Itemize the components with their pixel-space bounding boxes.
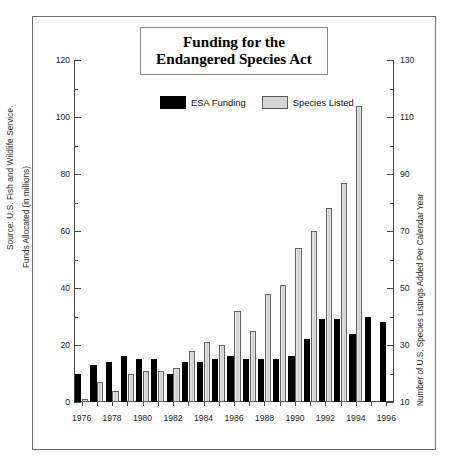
right-tick-major: [387, 402, 394, 403]
right-tick-major: [387, 117, 394, 118]
chart-title-line-1: Funding for the: [149, 33, 319, 50]
x-axis-label: 1982: [156, 413, 190, 423]
x-axis-label: 1976: [65, 413, 99, 423]
bar-species-listed: [173, 368, 179, 402]
x-tick: [188, 402, 189, 406]
bar-esa-funding: [197, 362, 203, 402]
right-tick-minor: [390, 374, 394, 375]
x-axis-label: 1996: [369, 413, 403, 423]
right-tick-label: 130: [400, 55, 440, 65]
source-credit: Source: U.S. Fish and Wildlife Service.: [6, 50, 15, 250]
bar-esa-funding: [304, 339, 310, 402]
bar-esa-funding: [90, 365, 96, 402]
bar-esa-funding: [121, 356, 127, 402]
bar-species-listed: [82, 399, 88, 402]
bar-species-listed: [341, 183, 347, 402]
x-tick: [249, 402, 250, 406]
bar-esa-funding: [212, 359, 218, 402]
bar-esa-funding: [380, 322, 386, 402]
chart-figure: Source: U.S. Fish and Wildlife Service. …: [0, 0, 450, 464]
right-tick-minor: [390, 317, 394, 318]
left-tick-major: [74, 174, 81, 175]
x-axis-label: 1978: [95, 413, 129, 423]
x-tick: [234, 402, 235, 406]
plot-area: 020406080100120 1030507090110130 1976197…: [74, 60, 394, 402]
x-tick: [295, 402, 296, 406]
bar-esa-funding: [288, 356, 294, 402]
bar-species-listed: [128, 374, 134, 403]
x-axis-label: 1986: [217, 413, 251, 423]
x-tick: [341, 402, 342, 406]
x-axis-label: 1992: [308, 413, 342, 423]
bar-esa-funding: [151, 359, 157, 402]
right-tick-label: 70: [400, 226, 440, 236]
left-tick-minor: [74, 260, 78, 261]
legend-label-species-listed: Species Listed: [293, 97, 354, 108]
bar-esa-funding: [227, 356, 233, 402]
bar-esa-funding: [258, 359, 264, 402]
left-tick-label: 40: [30, 283, 70, 293]
left-tick-label: 80: [30, 169, 70, 179]
light-swatch-icon: [262, 96, 288, 109]
right-tick-major: [387, 345, 394, 346]
right-tick-minor: [390, 89, 394, 90]
x-axis-label: 1988: [247, 413, 281, 423]
left-tick-major: [74, 288, 81, 289]
dark-swatch-icon: [160, 96, 186, 109]
bar-species-listed: [280, 285, 286, 402]
x-tick: [310, 402, 311, 406]
bar-esa-funding: [334, 319, 340, 402]
x-tick: [112, 402, 113, 406]
left-tick-minor: [74, 89, 78, 90]
x-tick: [219, 402, 220, 406]
right-tick-label: 50: [400, 283, 440, 293]
x-tick: [127, 402, 128, 406]
left-tick-major: [74, 60, 81, 61]
bar-species-listed: [189, 351, 195, 402]
x-tick: [371, 402, 372, 406]
right-tick-minor: [390, 260, 394, 261]
left-tick-label: 120: [30, 55, 70, 65]
bar-esa-funding: [319, 319, 325, 402]
x-axis-label: 1994: [339, 413, 373, 423]
x-tick: [264, 402, 265, 406]
right-tick-minor: [390, 146, 394, 147]
x-tick: [173, 402, 174, 406]
x-tick: [280, 402, 281, 406]
x-tick: [143, 402, 144, 406]
bar-esa-funding: [106, 362, 112, 402]
x-tick: [82, 402, 83, 406]
bar-esa-funding: [243, 359, 249, 402]
bar-species-listed: [219, 345, 225, 402]
right-tick-label: 110: [400, 112, 440, 122]
bar-species-listed: [97, 382, 103, 402]
bar-species-listed: [265, 294, 271, 402]
bar-species-listed: [143, 371, 149, 402]
bar-species-listed: [311, 231, 317, 402]
bar-species-listed: [295, 248, 301, 402]
right-tick-major: [387, 174, 394, 175]
left-tick-minor: [74, 146, 78, 147]
bar-esa-funding: [167, 374, 173, 403]
bar-esa-funding: [349, 334, 355, 402]
left-tick-major: [74, 345, 81, 346]
bar-species-listed: [204, 342, 210, 402]
bar-esa-funding: [75, 374, 81, 403]
right-tick-major: [387, 231, 394, 232]
right-tick-label: 90: [400, 169, 440, 179]
bar-esa-funding: [365, 317, 371, 403]
right-tick-label: 10: [400, 397, 440, 407]
right-axis-title: Number of U.S. Species Listings Added Pe…: [416, 146, 425, 406]
bar-species-listed: [326, 208, 332, 402]
right-tick-major: [387, 60, 394, 61]
x-tick: [386, 402, 387, 406]
bar-species-listed: [158, 371, 164, 402]
right-tick-major: [387, 288, 394, 289]
bar-esa-funding: [273, 359, 279, 402]
right-tick-label: 30: [400, 340, 440, 350]
x-axis-label: 1990: [278, 413, 312, 423]
x-axis-label: 1984: [187, 413, 221, 423]
bar-species-listed: [356, 106, 362, 402]
x-tick: [158, 402, 159, 406]
left-tick-label: 20: [30, 340, 70, 350]
